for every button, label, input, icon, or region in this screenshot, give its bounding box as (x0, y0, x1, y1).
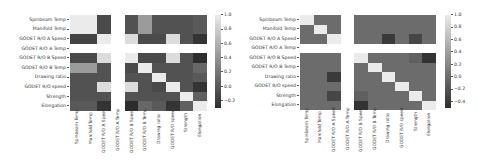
heatmap-cell (341, 63, 355, 73)
column-label: Strength (413, 112, 418, 131)
heatmap-cell (354, 53, 368, 63)
heatmap-cell (368, 44, 382, 54)
heatmap-cell (125, 63, 139, 73)
heatmap-cell (152, 73, 166, 83)
heatmap-cell (111, 25, 125, 35)
heatmap-cell (422, 44, 436, 54)
heatmap-cell (152, 82, 166, 92)
heatmap-cell (354, 25, 368, 35)
heatmap-cell (111, 82, 125, 92)
heatmap-cell (125, 92, 139, 102)
heatmap-cell (70, 25, 84, 35)
heatmap-cell (354, 72, 368, 82)
column-label: Manifold Temp (88, 112, 93, 144)
heatmap-cell (314, 34, 328, 44)
heatmap-cell (395, 25, 409, 35)
colorbar-tick-label: 1.0 (451, 12, 461, 17)
heatmap-cell (125, 15, 139, 25)
heatmap-cell (341, 44, 355, 54)
heatmap-cell (138, 63, 152, 73)
heatmap-cell (368, 25, 382, 35)
colorbar-tick-label: 0.6 (451, 37, 461, 42)
row-label: GODET R/O B Temp (21, 65, 69, 70)
heatmap-cell (180, 92, 194, 102)
heatmap-cell (70, 82, 84, 92)
heatmap-cell (166, 15, 180, 25)
heatmap-cell (180, 44, 194, 54)
heatmap-cell (314, 101, 328, 111)
heatmap-cell (166, 92, 180, 102)
heatmap-cell (382, 63, 396, 73)
heatmap-cell (97, 82, 111, 92)
heatmap-cell (111, 34, 125, 44)
column-label: Elongation (197, 114, 202, 137)
heatmap-cell (327, 15, 341, 25)
column-label: GODET R/O B Temp (142, 108, 147, 151)
heatmap-cell (354, 63, 368, 73)
heatmap-cell (341, 82, 355, 92)
heatmap-cell (166, 73, 180, 83)
heatmap-cell (138, 15, 152, 25)
heatmap-grid-right (300, 15, 436, 110)
column-label: GODET R/O B Speed (358, 107, 363, 152)
heatmap-cell (84, 73, 98, 83)
column-label: GODET R/O B Temp (372, 107, 377, 150)
heatmap-cell (422, 82, 436, 92)
colorbar-tick-label: 0.4 (451, 49, 461, 54)
heatmap-cell (300, 44, 314, 54)
heatmap-cell (382, 53, 396, 63)
heatmap-cell (138, 92, 152, 102)
column-label: Strength (183, 113, 188, 132)
column-label: Spinbeam Temp (74, 109, 79, 144)
heatmap-cell (166, 82, 180, 92)
column-label: Spinbeam Temp (304, 108, 309, 143)
heatmap-cell (327, 25, 341, 35)
row-label: GODET R/O speed (24, 84, 69, 89)
column-label: GODET R/O A Temp (115, 108, 120, 151)
heatmap-cell (422, 25, 436, 35)
heatmap-cell (84, 92, 98, 102)
heatmap-cell (193, 63, 207, 73)
heatmap-cell (327, 72, 341, 82)
heatmap-cell (395, 53, 409, 63)
heatmap-cell (84, 53, 98, 63)
heatmap-cell (422, 72, 436, 82)
heatmap-cell (314, 82, 328, 92)
colorbar-tick-label: −0.2 (221, 98, 235, 103)
heatmap-cell (193, 15, 207, 25)
row-label: GODET R/O A Temp (251, 45, 299, 50)
heatmap-cell (300, 72, 314, 82)
heatmap-cell (152, 92, 166, 102)
heatmap-cell (354, 34, 368, 44)
row-label: Drawing ratio (35, 74, 69, 79)
colorbar-tick-label: 0.8 (221, 26, 231, 31)
colorbar-tick-label: 0.0 (221, 84, 231, 89)
heatmap-cell (314, 25, 328, 35)
heatmap-cell (138, 53, 152, 63)
heatmap-cell (382, 44, 396, 54)
heatmap-cell (409, 53, 423, 63)
heatmap-cell (97, 15, 111, 25)
heatmap-cell (180, 82, 194, 92)
heatmap-cell (84, 82, 98, 92)
heatmap-cell (395, 34, 409, 44)
heatmap-cell (193, 34, 207, 44)
heatmap-panel-right: Spinbeam TempManifold TempGODET R/O A Sp… (238, 0, 477, 164)
heatmap-cell (125, 34, 139, 44)
heatmap-cell (327, 44, 341, 54)
heatmap-cell (97, 53, 111, 63)
heatmap-cell (193, 25, 207, 35)
heatmap-cell (193, 73, 207, 83)
heatmap-cell (193, 53, 207, 63)
heatmap-cell (409, 44, 423, 54)
heatmap-cell (382, 91, 396, 101)
heatmap-cell (152, 25, 166, 35)
heatmap-cell (314, 44, 328, 54)
heatmap-cell (193, 44, 207, 54)
heatmap-cell (180, 34, 194, 44)
row-label: Strength (276, 93, 299, 98)
row-label: Manifold Temp (263, 26, 299, 31)
heatmap-cell (166, 53, 180, 63)
heatmap-cell (84, 25, 98, 35)
heatmap-cell (382, 34, 396, 44)
